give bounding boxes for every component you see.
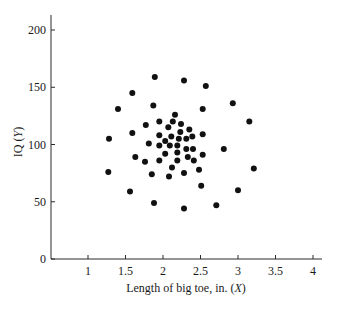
- y-axis-label: IQ (Y): [11, 127, 25, 157]
- x-tick-label: 2: [160, 264, 166, 278]
- data-point: [174, 143, 180, 149]
- data-point: [142, 159, 148, 165]
- y-axis: 050100150200 IQ (Y): [11, 15, 55, 266]
- scatter-chart: 050100150200 IQ (Y) 11.522.533.54 Length…: [0, 0, 341, 310]
- x-axis: 11.522.533.54 Length of big toe, in. (X): [51, 255, 322, 295]
- data-point: [185, 154, 191, 160]
- y-tick-label: 200: [28, 23, 46, 37]
- data-point: [146, 140, 152, 146]
- y-tick-label: 150: [28, 80, 46, 94]
- data-point: [129, 130, 135, 136]
- x-tick-label: 4: [310, 264, 316, 278]
- y-tick-label: 100: [28, 138, 46, 152]
- data-point: [213, 202, 219, 208]
- data-point: [181, 77, 187, 83]
- data-point: [156, 119, 162, 125]
- data-point: [191, 158, 197, 164]
- data-point: [190, 146, 196, 152]
- data-point: [221, 146, 227, 152]
- data-point: [200, 106, 206, 112]
- data-point: [178, 121, 184, 127]
- data-point: [162, 151, 168, 157]
- data-point: [177, 129, 183, 135]
- data-point: [167, 143, 173, 149]
- data-point: [174, 150, 180, 156]
- data-point: [156, 132, 162, 138]
- x-axis-label: Length of big toe, in. (X): [126, 281, 246, 295]
- data-points: [105, 74, 256, 212]
- data-point: [168, 134, 174, 140]
- data-point: [152, 74, 158, 80]
- x-ticks: 11.522.533.54: [85, 255, 316, 278]
- data-point: [149, 171, 155, 177]
- data-point: [127, 188, 133, 194]
- x-tick-label: 1.5: [118, 264, 133, 278]
- y-tick-label: 50: [34, 195, 46, 209]
- data-point: [156, 158, 162, 164]
- data-point: [200, 131, 206, 137]
- chart-canvas: 050100150200 IQ (Y) 11.522.533.54 Length…: [0, 0, 341, 310]
- x-tick-label: 2.5: [193, 264, 208, 278]
- data-point: [151, 200, 157, 206]
- data-point: [235, 187, 241, 193]
- data-point: [186, 127, 192, 133]
- data-point: [170, 119, 176, 125]
- data-point: [174, 158, 180, 164]
- data-point: [150, 103, 156, 109]
- data-point: [181, 170, 187, 176]
- data-point: [166, 174, 172, 180]
- data-point: [196, 167, 202, 173]
- data-point: [203, 83, 209, 89]
- x-tick-label: 3.5: [268, 264, 283, 278]
- data-point: [189, 134, 195, 140]
- data-point: [115, 106, 121, 112]
- data-point: [251, 166, 257, 172]
- data-point: [246, 119, 252, 125]
- x-tick-label: 1: [85, 264, 91, 278]
- x-tick-label: 3: [235, 264, 241, 278]
- data-point: [132, 154, 138, 160]
- data-point: [200, 152, 206, 158]
- data-point: [162, 138, 168, 144]
- data-point: [230, 100, 236, 106]
- data-point: [165, 124, 171, 130]
- data-point: [143, 122, 149, 128]
- data-point: [172, 112, 178, 118]
- y-tick-label: 0: [40, 252, 46, 266]
- data-point: [181, 206, 187, 212]
- data-point: [176, 136, 182, 142]
- data-point: [106, 136, 112, 142]
- data-point: [183, 146, 189, 152]
- data-point: [169, 164, 175, 170]
- data-point: [156, 143, 162, 149]
- data-point: [129, 90, 135, 96]
- data-point: [105, 169, 111, 175]
- data-point: [183, 136, 189, 142]
- data-point: [198, 183, 204, 189]
